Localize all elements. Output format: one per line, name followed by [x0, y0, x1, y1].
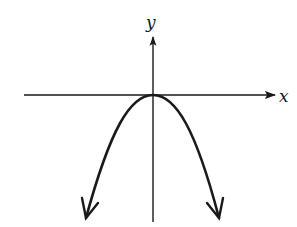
- x-axis-label: x: [279, 86, 289, 106]
- parabola-graph: x y: [0, 0, 297, 227]
- y-axis-label: y: [145, 12, 156, 32]
